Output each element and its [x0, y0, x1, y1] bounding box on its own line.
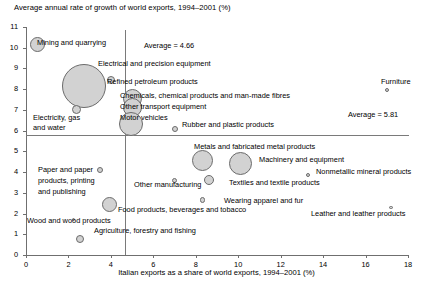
- data-bubble: [76, 235, 84, 243]
- x-tick: [238, 255, 239, 258]
- y-tick-label: 9: [2, 63, 18, 72]
- data-bubble: [200, 197, 205, 202]
- series-label: products, printing: [38, 176, 95, 185]
- y-tick-label: 8: [2, 84, 18, 93]
- x-tick: [281, 255, 282, 258]
- series-label: Average = 5.81: [348, 110, 398, 119]
- y-tick-label: 1: [2, 229, 18, 238]
- x-tick: [366, 255, 367, 258]
- series-label: Electricity, gas: [33, 113, 80, 122]
- series-label: Wood and wood products: [27, 216, 111, 225]
- data-bubble: [172, 126, 178, 132]
- series-label: Textiles and textile products: [229, 178, 320, 187]
- y-tick-label: 0: [2, 250, 18, 259]
- data-bubble: [102, 197, 117, 212]
- x-tick: [153, 255, 154, 258]
- series-label: Metals and fabricated metal products: [194, 142, 315, 151]
- series-label: Other transport equipment: [120, 102, 206, 111]
- data-bubble: [62, 64, 106, 108]
- series-label: Chemicals, chemical products and man-mad…: [120, 91, 290, 100]
- series-label: Machinery and equipment: [259, 155, 344, 164]
- x-axis-title: Italian exports as a share of world expo…: [0, 268, 433, 277]
- series-label: Other manufacturing: [134, 180, 201, 189]
- x-axis-line: [26, 255, 409, 256]
- bubble-chart: Average annual rate of growth of world e…: [0, 0, 433, 287]
- series-label: Furniture: [381, 77, 411, 86]
- data-bubble: [229, 152, 252, 175]
- x-tick: [26, 255, 27, 258]
- series-label: Agriculture, forestry and fishing: [94, 226, 196, 235]
- series-label: Paper and paper: [38, 165, 93, 174]
- data-bubble: [385, 88, 389, 92]
- data-bubble: [306, 173, 310, 177]
- series-label: and water: [33, 123, 65, 132]
- y-tick-label: 10: [2, 43, 18, 52]
- series-label: Average = 4.66: [144, 41, 194, 50]
- series-label: Refined petroleum products: [107, 77, 198, 86]
- series-label: Nonmetallic mineral products: [316, 167, 411, 176]
- y-tick-label: 3: [2, 188, 18, 197]
- y-tick-label: 11: [2, 22, 18, 31]
- series-label: and publishing: [38, 187, 86, 196]
- x-tick: [196, 255, 197, 258]
- series-label: Food products, beverages and tobacco: [118, 205, 246, 214]
- x-tick: [111, 255, 112, 258]
- chart-title: Average annual rate of growth of world e…: [14, 3, 231, 12]
- y-tick-label: 5: [2, 146, 18, 155]
- y-tick-label: 2: [2, 209, 18, 218]
- data-bubble: [97, 167, 103, 173]
- series-label: Mining and quarrying: [37, 38, 106, 47]
- series-label: Electrical and precision equipment: [98, 59, 211, 68]
- series-label: Leather and leather products: [311, 209, 406, 218]
- x-tick: [68, 255, 69, 258]
- data-bubble: [192, 150, 213, 171]
- series-label: Rubber and plastic products: [182, 120, 274, 129]
- data-bubble: [204, 175, 214, 185]
- y-tick-label: 6: [2, 126, 18, 135]
- y-tick-label: 7: [2, 105, 18, 114]
- series-label: Motor vehicles: [120, 113, 168, 122]
- series-label: Wearing apparel and fur: [224, 196, 303, 205]
- x-tick: [323, 255, 324, 258]
- x-tick: [408, 255, 409, 258]
- y-tick-label: 4: [2, 167, 18, 176]
